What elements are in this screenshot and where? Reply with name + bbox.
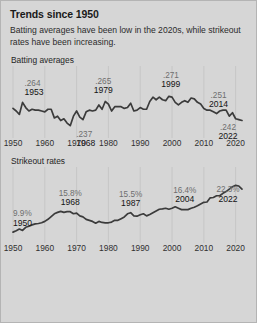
x-tick-1960: 1960 (35, 243, 54, 253)
annotation-2014: .2512014 (209, 91, 228, 110)
x-axis-batting: 19501960197019801990200020102020 (9, 138, 250, 152)
x-tick-2010: 2010 (195, 138, 214, 148)
annotation-1968: 15.8%1968 (59, 189, 82, 208)
x-tick-2020: 2020 (226, 138, 245, 148)
chart-card: Trends since 1950 Batting averages have … (0, 0, 257, 323)
panel-title-strikeout: Strikeout rates (11, 156, 248, 166)
annotation-year: 2004 (173, 195, 196, 204)
x-tick-1970: 1970 (67, 243, 86, 253)
annotation-year: 2022 (216, 195, 239, 204)
annotation-1950: 9.9%1950 (13, 209, 32, 228)
x-tick-1950: 1950 (4, 138, 23, 148)
page-subtitle: Batting averages have been low in the 20… (10, 25, 242, 48)
annotation-2004: 16.4%2004 (173, 186, 196, 205)
panel-strikeout-rates: Strikeout rates 9.9%195015.8%196815.5%19… (9, 156, 248, 257)
panel-title-batting: Batting averages (11, 55, 248, 65)
page-title: Trends since 1950 (10, 8, 248, 20)
annotation-2022: 22.3%2022 (216, 185, 239, 204)
x-tick-1990: 1990 (131, 138, 150, 148)
annotation-year: 1950 (13, 219, 32, 228)
annotation-year: 1987 (119, 199, 142, 208)
x-tick-2010: 2010 (195, 243, 214, 253)
x-tick-1970: 1970 (67, 138, 86, 148)
x-tick-1990: 1990 (131, 243, 150, 253)
x-tick-1980: 1980 (99, 138, 118, 148)
annotation-1999: .2711999 (161, 71, 180, 90)
annotation-year: 1979 (94, 86, 113, 95)
x-tick-2000: 2000 (163, 138, 182, 148)
annotation-year: 1999 (161, 80, 180, 89)
x-tick-2000: 2000 (163, 243, 182, 253)
plot-batting: .2641953.2371968.2651979.2711999.2512014… (9, 66, 250, 138)
plot-strikeout: 9.9%195015.8%196815.5%198716.4%200422.3%… (9, 167, 250, 243)
annotation-year: 2014 (209, 100, 228, 109)
annotation-1979: .2651979 (94, 77, 113, 96)
panel-batting-averages: Batting averages .2641953.2371968.265197… (9, 55, 248, 152)
x-tick-2020: 2020 (226, 243, 245, 253)
annotation-1953: .2641953 (25, 79, 44, 98)
annotation-1987: 15.5%1987 (119, 190, 142, 209)
x-tick-1960: 1960 (35, 138, 54, 148)
x-tick-1980: 1980 (99, 243, 118, 253)
annotation-year: 1968 (59, 198, 82, 207)
x-axis-strikeout: 19501960197019801990200020102020 (9, 243, 250, 257)
annotation-year: 1953 (25, 88, 44, 97)
x-tick-1950: 1950 (4, 243, 23, 253)
